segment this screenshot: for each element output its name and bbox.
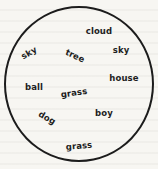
- word-cloud: cloud: [86, 27, 112, 36]
- word-boy: boy: [95, 109, 113, 118]
- word-grass-bottom: grass: [65, 141, 92, 152]
- word-house: house: [109, 74, 138, 83]
- word-ball: ball: [25, 83, 43, 92]
- word-sky-right: sky: [113, 46, 130, 55]
